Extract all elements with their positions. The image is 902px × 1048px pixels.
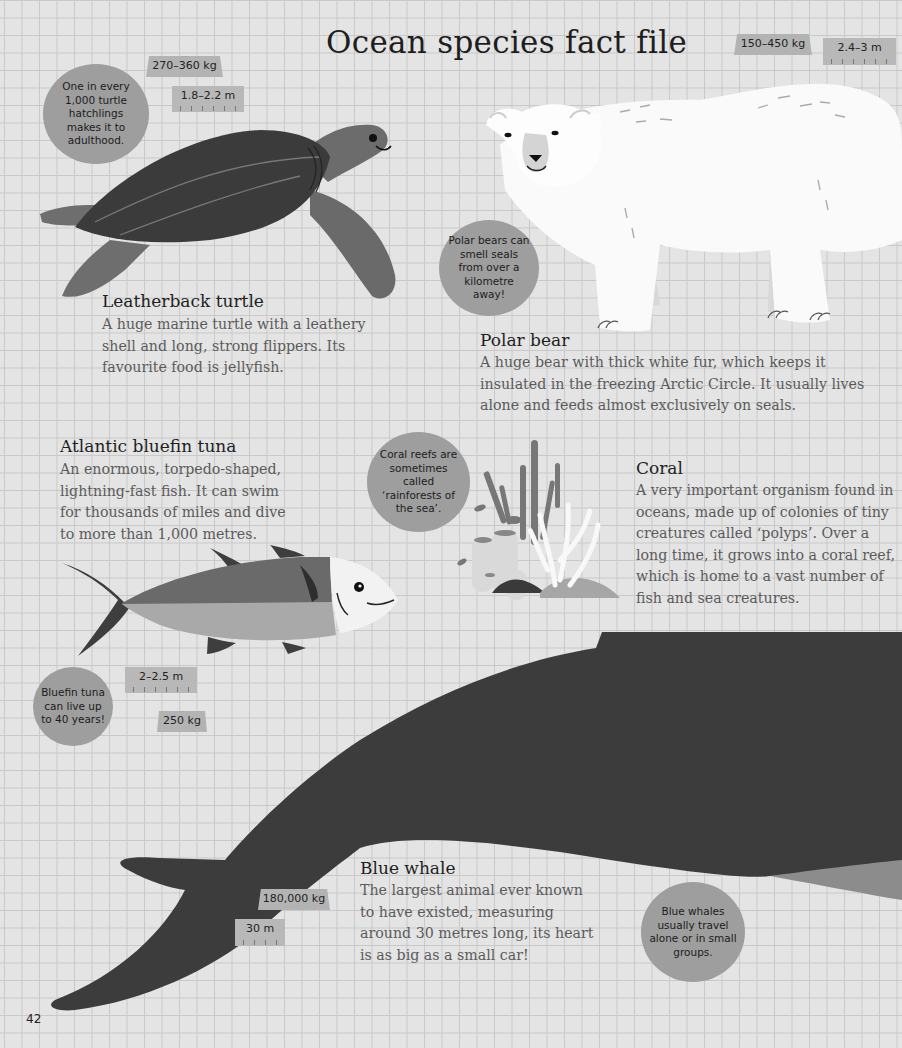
blue-whale-heading: Blue whale: [360, 858, 455, 878]
blue-whale-length-tag: 30 m: [235, 919, 285, 946]
blue-whale-description: The largest animal ever known to have ex…: [360, 880, 600, 966]
blue-whale-fact-text: Blue whales usually travel alone or in s…: [649, 905, 737, 959]
blue-whale-length-value: 30 m: [246, 922, 274, 935]
blue-whale-weight-tag: 180,000 kg: [258, 889, 330, 910]
blue-whale-fact-bubble: Blue whales usually travel alone or in s…: [641, 882, 745, 982]
page-number: 42: [26, 1012, 41, 1026]
blue-whale-weight-value: 180,000 kg: [263, 892, 325, 905]
ruler-ticks-icon: [243, 940, 277, 945]
